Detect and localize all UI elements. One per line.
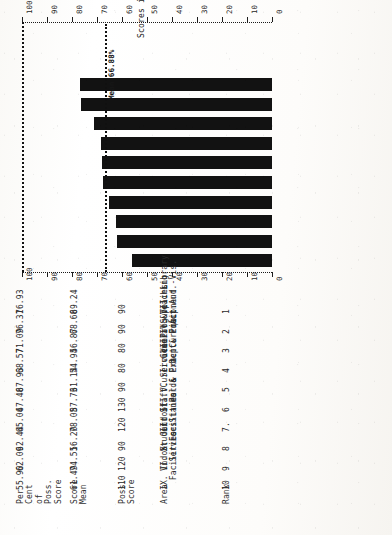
axis-tick (97, 17, 98, 22)
table-cell-rank: 8 (222, 446, 231, 451)
table-cell-percent: 55.90 (16, 466, 25, 491)
axis-tick-label: 30 (200, 272, 209, 281)
table-cell-rank: 9 (222, 466, 231, 471)
axis-tick-label: 100 (25, 268, 34, 281)
axis-tick-label: 50 (150, 272, 159, 281)
chart-axis-title: Scores in Per Cent (137, 0, 146, 38)
axis-tick-label: 60 (125, 5, 134, 14)
axis-tick (172, 17, 173, 22)
table-cell-rank: 7. (222, 422, 231, 432)
axis-tick-label: 20 (225, 272, 234, 281)
axis-tick-label: 80 (75, 5, 84, 14)
axis-tick-label: 10 (250, 5, 259, 14)
axis-tick (22, 17, 23, 22)
bar-chart: 0102030405060708090100 01020304050607080… (0, 0, 392, 292)
table-cell-poss-score: 120 (118, 417, 127, 432)
axis-tick-label: 90 (50, 5, 59, 14)
bar (102, 156, 272, 169)
mean-line-label: Mean 66.88% (107, 50, 116, 100)
axis-tick-label: 100 (25, 1, 34, 14)
axis-tick (197, 17, 198, 22)
axis-tick-label: 60 (125, 272, 134, 281)
axis-tick-label: 50 (150, 5, 159, 14)
table-cell-poss-score: 80 (118, 363, 127, 373)
table-cell-poss-score: 90 (118, 324, 127, 334)
axis-tick-label: 10 (250, 272, 259, 281)
table-cell-area: IX. Indoor Facilities (160, 431, 179, 490)
axis-tick-label: 30 (200, 5, 209, 14)
table-cell-poss-score: 90 (118, 441, 127, 451)
table-cell-rank: 6 (222, 407, 231, 412)
axis-tick (72, 17, 73, 22)
bar (116, 215, 272, 228)
axis-tick (272, 272, 273, 277)
axis-tick-label: 70 (100, 272, 109, 281)
axis-tick (197, 272, 198, 277)
axis-tick (47, 17, 48, 22)
axis-tick-label: 0 (275, 10, 284, 14)
table-cell-rank: 10 (222, 481, 231, 491)
axis-tick (247, 17, 248, 22)
chart-value-axis (22, 22, 24, 272)
axis-tick-label: 0 (275, 277, 284, 281)
bar (103, 176, 272, 189)
axis-tick (122, 272, 123, 277)
axis-tick (122, 17, 123, 22)
axis-tick (47, 272, 48, 277)
scanned-page: 0102030405060708090100 01020304050607080… (0, 0, 392, 535)
bar (101, 137, 272, 150)
axis-tick-label: 40 (175, 5, 184, 14)
axis-tick (72, 272, 73, 277)
axis-tick-label: 90 (50, 272, 59, 281)
axis-tick-label: 70 (100, 5, 109, 14)
chart-axis-rail-top (22, 22, 272, 23)
axis-tick (22, 272, 23, 277)
table-cell-rank: 4 (222, 368, 231, 373)
table-cell-score-mean: 61.49 (70, 466, 79, 491)
table-cell-poss-score: 120 (118, 456, 127, 471)
table-cell-poss-score: 90 (118, 304, 127, 314)
axis-tick (247, 272, 248, 277)
table-cell-poss-score: 90 (118, 383, 127, 393)
axis-tick-label: 80 (75, 272, 84, 281)
table-cell-poss-score: 130 (118, 397, 127, 412)
table-cell-rank: 2 (222, 329, 231, 334)
axis-tick (147, 17, 148, 22)
table-cell-rank: 5 (222, 387, 231, 392)
axis-tick (97, 272, 98, 277)
table-cell-poss-score: 110 (118, 476, 127, 491)
table-cell-rank: 3 (222, 348, 231, 353)
bar (132, 254, 272, 267)
data-table: Per Cent of Poss. ScoreScore MeanPoss. S… (0, 292, 392, 535)
table-cell-rank: 1 (222, 309, 231, 314)
axis-tick (147, 272, 148, 277)
bar (117, 235, 272, 248)
axis-tick (222, 17, 223, 22)
table-cell-poss-score: 80 (118, 343, 127, 353)
axis-tick (222, 272, 223, 277)
bar (109, 196, 272, 209)
bar (94, 117, 272, 130)
axis-tick (272, 17, 273, 22)
axis-tick-label: 20 (225, 5, 234, 14)
